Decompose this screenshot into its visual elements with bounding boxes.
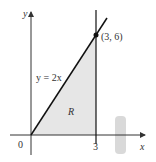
region-label: R [67,106,74,117]
line-label: y = 2x [36,72,62,83]
intersection-point [94,33,99,38]
y-axis-label: y [22,8,28,19]
x-axis-label: x [139,141,145,152]
origin-label: 0 [18,139,23,150]
region-diagram: y x 0 3 y = 2x (3, 6) R [0,0,156,162]
tick-3-label: 3 [93,141,98,152]
point-label: (3, 6) [101,31,123,43]
